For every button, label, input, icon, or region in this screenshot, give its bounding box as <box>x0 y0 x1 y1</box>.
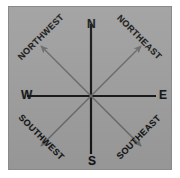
cardinal-label-east: E <box>159 89 167 101</box>
compass-panel: N E S W NORTHWEST NORTHEAST SOUTHWEST SO… <box>8 6 172 170</box>
cardinal-label-west: W <box>21 89 32 101</box>
compass-diagram <box>9 7 172 170</box>
compass-rose-figure: N E S W NORTHWEST NORTHEAST SOUTHWEST SO… <box>0 0 180 178</box>
cardinal-label-north: N <box>87 18 96 30</box>
northwest-arrow <box>41 46 91 96</box>
cardinal-label-south: S <box>88 155 96 167</box>
northeast-arrow <box>91 46 141 96</box>
